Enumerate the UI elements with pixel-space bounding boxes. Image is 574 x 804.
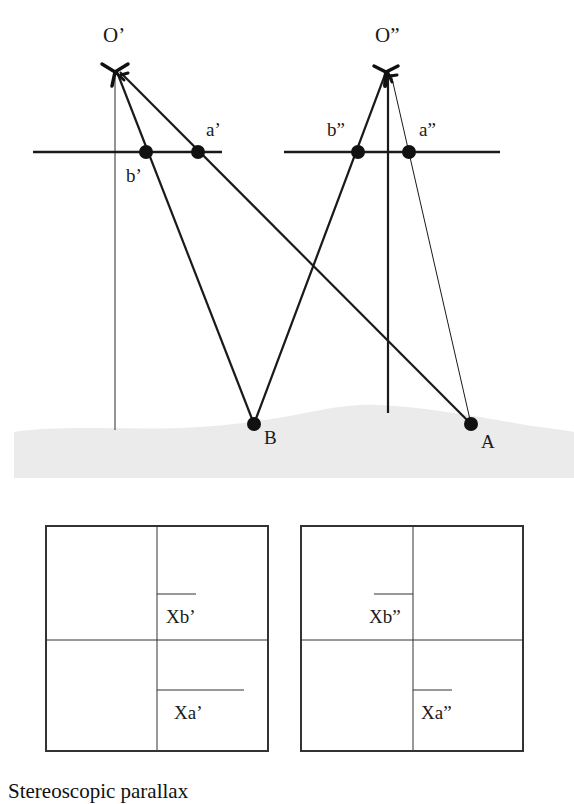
- ray-o1-to-b: [117, 72, 254, 424]
- label-o-double-prime: O”: [375, 25, 400, 46]
- label-xa-double-prime: Xa”: [421, 703, 452, 722]
- point-b-prime: [139, 145, 153, 159]
- label-ground-a: A: [481, 432, 495, 451]
- ground-point-a: [464, 417, 478, 431]
- figure-caption: Stereoscopic parallax: [8, 779, 188, 804]
- label-b-double-prime: b”: [327, 120, 345, 139]
- ground-point-b: [247, 417, 261, 431]
- label-xb-prime: Xb’: [166, 607, 196, 626]
- left-photo-panel: Xb’ Xa’: [45, 525, 269, 752]
- ray-o2-to-b: [254, 72, 386, 424]
- point-a-double-prime: [402, 145, 416, 159]
- label-o-prime: O’: [103, 25, 125, 46]
- label-xb-double-prime: Xb”: [369, 607, 401, 626]
- airplane-icon: [374, 66, 398, 86]
- label-a-prime: a’: [206, 120, 221, 139]
- left-photo-axes: [47, 527, 267, 750]
- label-b-prime: b’: [126, 166, 142, 185]
- right-photo-axes: [302, 527, 522, 750]
- point-a-prime: [191, 145, 205, 159]
- point-b-double-prime: [351, 145, 365, 159]
- label-ground-b: B: [264, 428, 277, 447]
- right-photo-panel: Xb” Xa”: [300, 525, 524, 752]
- label-a-double-prime: a”: [419, 120, 436, 139]
- label-xa-prime: Xa’: [174, 703, 202, 722]
